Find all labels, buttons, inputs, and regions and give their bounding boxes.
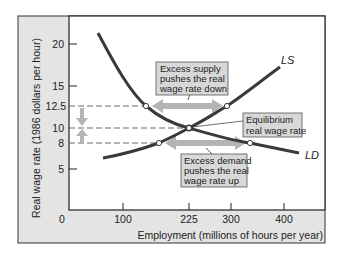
ls-point-12-5 [224, 103, 229, 108]
x-tick-400: 400 [275, 213, 293, 225]
excess-supply-line3: wage rate down [159, 83, 227, 94]
y-tick-12-5: 12.5 [46, 100, 67, 112]
ls-point-8 [156, 140, 161, 145]
equilibrium-line1: Equilibrium [246, 114, 293, 125]
equilibrium-point [186, 125, 192, 131]
y-tick-5: 5 [58, 163, 64, 175]
y-tick-15: 15 [52, 80, 64, 92]
ld-label: LD [305, 149, 319, 161]
x-axis-title: Employment (millions of hours per year) [137, 229, 323, 241]
x-tick-0: 0 [59, 213, 65, 225]
y-tick-10: 10 [52, 122, 64, 134]
x-tick-225: 225 [180, 213, 198, 225]
y-tick-20: 20 [52, 38, 64, 50]
x-tick-100: 100 [114, 213, 132, 225]
x-tick-300: 300 [222, 213, 240, 225]
ld-point-12-5 [143, 103, 148, 108]
excess-demand-line3: wage rate up [183, 175, 239, 186]
y-tick-8: 8 [58, 137, 64, 149]
y-axis-title: Real wage rate (1986 dollars per hour) [30, 38, 42, 218]
equilibrium-line2: real wage rate [246, 125, 306, 136]
chart: Real wage rate (1986 dollars per hour) 2… [0, 0, 341, 279]
ls-label: LS [281, 54, 295, 66]
ld-point-8 [247, 140, 252, 145]
